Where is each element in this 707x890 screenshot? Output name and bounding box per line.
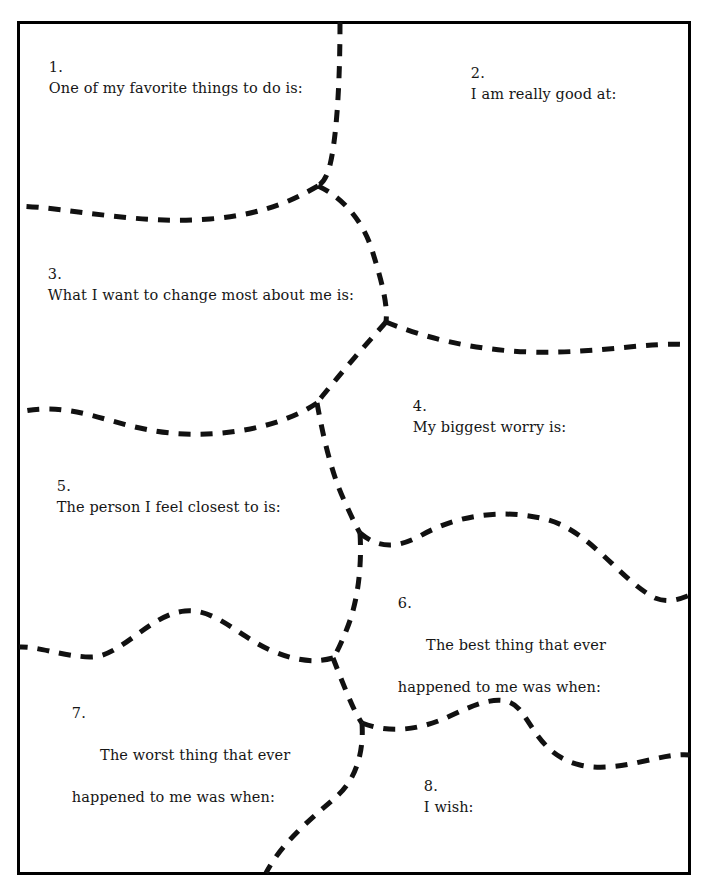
prompt-text-8: I wish: bbox=[424, 797, 474, 818]
prompt-item-3: 3. What I want to change most about me i… bbox=[29, 243, 354, 327]
prompt-text-6-line2: happened to me was when: bbox=[398, 677, 606, 698]
prompt-item-7: 7. The worst thing that ever happened to… bbox=[53, 682, 290, 871]
prompt-number-2: 2. bbox=[471, 63, 485, 84]
prompt-number-4: 4. bbox=[413, 396, 427, 417]
prompt-item-6: 6. The best thing that ever happened to … bbox=[379, 572, 606, 761]
prompt-text-6-line1: The best thing that ever bbox=[426, 637, 606, 653]
prompt-item-1: 1. One of my favorite things to do is: bbox=[30, 36, 303, 120]
prompt-number-5: 5. bbox=[57, 476, 71, 497]
prompt-number-6: 6. bbox=[398, 593, 412, 614]
prompt-text-7-line1: The worst thing that ever bbox=[100, 747, 290, 763]
prompt-item-4: 4. My biggest worry is: bbox=[394, 375, 566, 459]
prompt-text-2: I am really good at: bbox=[471, 84, 617, 105]
prompt-item-8: 8. I wish: bbox=[405, 755, 474, 839]
prompt-number-1: 1. bbox=[49, 57, 63, 78]
worksheet-page: 1. One of my favorite things to do is: 2… bbox=[0, 0, 707, 890]
prompt-text-7-line2: happened to me was when: bbox=[72, 787, 290, 808]
prompt-number-8: 8. bbox=[424, 776, 438, 797]
prompt-text-3: What I want to change most about me is: bbox=[48, 285, 354, 306]
prompt-number-7: 7. bbox=[72, 703, 86, 724]
prompt-item-5: 5. The person I feel closest to is: bbox=[38, 455, 281, 539]
prompt-number-3: 3. bbox=[48, 264, 62, 285]
prompt-item-2: 2. I am really good at: bbox=[452, 42, 616, 126]
prompt-text-1: One of my favorite things to do is: bbox=[49, 78, 303, 99]
prompt-text-5: The person I feel closest to is: bbox=[57, 497, 281, 518]
prompt-text-4: My biggest worry is: bbox=[413, 417, 566, 438]
